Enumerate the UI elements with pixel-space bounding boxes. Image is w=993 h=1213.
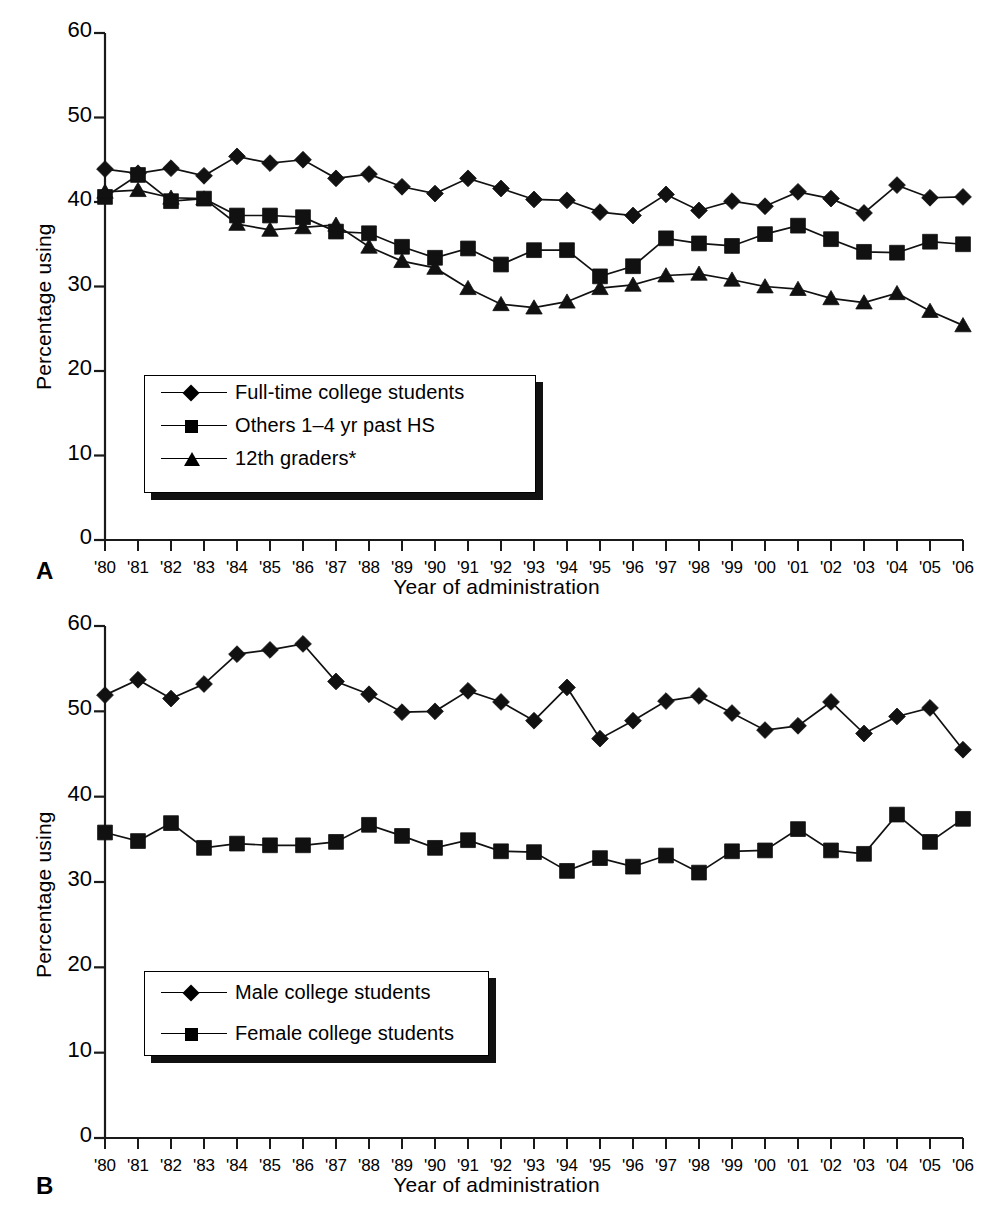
- legend-item-full-time-college-students: Full-time college students: [145, 376, 535, 409]
- x-tick-label: '06: [943, 1156, 983, 1176]
- legend-item-12th-graders: 12th graders*: [145, 442, 535, 475]
- panel-a: Percentage using Year of administration …: [0, 0, 993, 600]
- y-tick-label: 30: [32, 271, 92, 297]
- legend-label: Full-time college students: [235, 381, 464, 404]
- legend-label: 12th graders*: [235, 447, 356, 470]
- y-tick-label: 30: [32, 866, 92, 892]
- y-tick-label: 20: [32, 951, 92, 977]
- caption-fragment: [0, 1203, 993, 1213]
- legend-b: Male college students Female college stu…: [144, 971, 489, 1056]
- legend-label: Male college students: [235, 981, 431, 1004]
- x-axis-label-b: Year of administration: [0, 1173, 993, 1197]
- legend-label: Others 1–4 yr past HS: [235, 414, 435, 437]
- legend-marker-diamond-icon: [161, 983, 227, 1003]
- legend-marker-square-icon: [161, 416, 227, 436]
- legend-marker-diamond-icon: [161, 383, 227, 403]
- legend-a: Full-time college students Others 1–4 yr…: [144, 375, 536, 493]
- legend-marker-square-icon: [161, 1024, 227, 1044]
- y-tick-label: 60: [32, 610, 92, 636]
- y-tick-label: 10: [32, 440, 92, 466]
- y-tick-label: 0: [32, 524, 92, 550]
- y-tick-label: 40: [32, 186, 92, 212]
- legend-label: Female college students: [235, 1022, 454, 1045]
- chart-b-plot: [0, 578, 993, 1213]
- y-tick-label: 0: [32, 1122, 92, 1148]
- y-tick-label: 20: [32, 355, 92, 381]
- chart-a-plot: [0, 0, 993, 600]
- legend-item-female-college-students: Female college students: [145, 1013, 488, 1054]
- legend-item-male-college-students: Male college students: [145, 972, 488, 1013]
- panel-letter-b: B: [36, 1172, 53, 1200]
- legend-item-others-1-4-yr-past-hs: Others 1–4 yr past HS: [145, 409, 535, 442]
- y-tick-label: 40: [32, 781, 92, 807]
- y-tick-label: 50: [32, 695, 92, 721]
- panel-b: Percentage using Year of administration …: [0, 578, 993, 1213]
- y-tick-label: 50: [32, 102, 92, 128]
- y-tick-label: 60: [32, 17, 92, 43]
- y-tick-label: 10: [32, 1037, 92, 1063]
- legend-marker-triangle-icon: [161, 449, 227, 469]
- x-tick-label: '06: [943, 558, 983, 578]
